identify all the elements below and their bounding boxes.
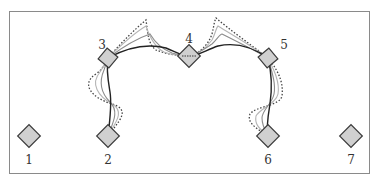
- node-6-label: 6: [264, 153, 272, 167]
- path-diagram: 1 2 3 4 5 6 7: [0, 0, 376, 181]
- node-5-label: 5: [280, 38, 288, 52]
- node-2: 2: [97, 125, 120, 167]
- node-6: 6: [257, 125, 280, 167]
- node-5: 5: [258, 38, 288, 68]
- node-3-label: 3: [98, 38, 106, 52]
- node-2-label: 2: [104, 153, 112, 167]
- node-7: 7: [340, 125, 363, 167]
- node-4: 4: [178, 32, 201, 67]
- node-1-label: 1: [25, 153, 33, 167]
- node-1: 1: [18, 125, 41, 167]
- node-7-label: 7: [347, 153, 355, 167]
- node-4-label: 4: [185, 32, 193, 46]
